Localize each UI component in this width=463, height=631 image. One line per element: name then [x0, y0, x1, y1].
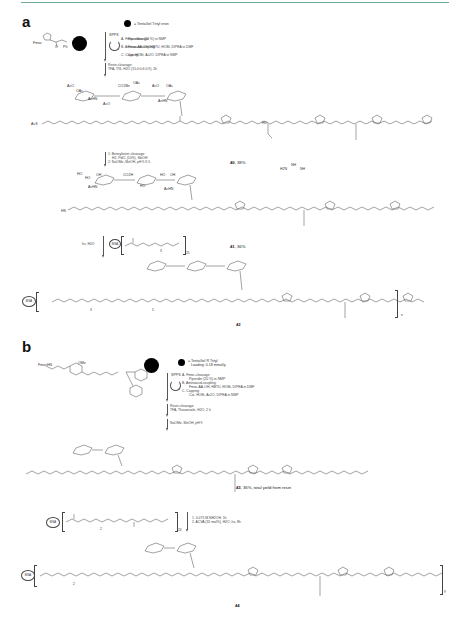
- peg-repeat-44: 2: [73, 582, 75, 586]
- resin-legend-a: = TentaGel Trityl resin: [134, 22, 169, 26]
- aco-label-3: AcO: [152, 84, 159, 88]
- resin-bead-a: [72, 36, 87, 51]
- panel-label-b: b: [22, 338, 31, 355]
- oac-label: OAc: [76, 89, 83, 93]
- compound-42-structure: [20, 256, 450, 326]
- achn-label-2: AcHN: [158, 99, 167, 103]
- spps-cond-a-c: Cat. HOBt, Ac2O, DIPEA in NMP: [128, 53, 178, 57]
- achn-41-1: AcHN: [88, 185, 97, 189]
- acetyl-label: AcO: [67, 84, 74, 88]
- resin-cleavage-cond-b: TFA, Thioanisole, H2O, 2 h: [170, 408, 211, 412]
- bracket-left-44: [34, 565, 37, 587]
- cycle-icon: [109, 40, 120, 51]
- repeat-n: n: [401, 313, 403, 317]
- bsa-carrier-42: BSA: [22, 296, 36, 307]
- spps-arrow-a: [105, 32, 106, 60]
- repeat-24: 24: [178, 528, 182, 532]
- step3-arrow-a: [103, 236, 104, 256]
- peg-repeat-3: 3: [160, 249, 162, 253]
- ho-41-3: HO: [140, 184, 145, 188]
- ho-41-2: HO: [85, 176, 90, 180]
- bsa-carrier-44: BSA: [21, 570, 35, 581]
- step4-b-2: 2. ACVA (31 mol%), H2O, hν, 8h: [192, 520, 241, 524]
- bsa-carrier-b1: BSA: [46, 517, 60, 528]
- compound-44-label: 44: [235, 603, 240, 608]
- spps-title-b: SPPS: [171, 373, 181, 377]
- oh-41-2: OH: [170, 173, 175, 177]
- compound-40-structure: [20, 88, 450, 152]
- spps-arrow-b: [167, 373, 168, 400]
- compound-43-structure: [20, 440, 450, 500]
- deprotect-arrow-b: [167, 419, 168, 429]
- cycle-icon-b: [170, 380, 181, 391]
- step2-a-2: 2: NaOMe, MeOH, pH 9-9.5: [108, 160, 150, 164]
- linker-hs: HS: [61, 209, 66, 213]
- peg-linker-a: [123, 236, 183, 254]
- repeat-9: 9: [444, 590, 446, 594]
- co2bn-label: CO2Bn: [118, 84, 130, 88]
- bracket-right-42: [395, 290, 398, 318]
- achn-41-2: AcHN: [164, 187, 173, 191]
- step2-arrow-a: [105, 152, 106, 165]
- compound-41-label: 41, 36%: [230, 244, 245, 249]
- maleimide-linker-b: [64, 512, 174, 530]
- step3-cond-a: hν, H2O: [82, 242, 94, 246]
- achn-label-1: AcHN: [88, 97, 97, 101]
- compound-44-structure: [20, 538, 450, 608]
- peg-repeat-42b: 5: [152, 308, 154, 312]
- resin-legend-icon: [124, 20, 131, 27]
- compound-40-label: 40, 38%: [230, 160, 245, 165]
- resin-legend-b-2: Loading: 0.18 mmol/g: [191, 363, 226, 367]
- spps-cond-b-c: Cat. HOBt, Ac2O, DIPEA in NMP: [189, 393, 239, 397]
- ho-label-40: HO: [262, 121, 267, 125]
- ome-label: OMe: [78, 361, 86, 365]
- ph-label-1: Ph: [63, 45, 67, 49]
- bracket-right-44: [440, 565, 443, 595]
- fmochn-label: FmocHN: [38, 363, 52, 367]
- linker-acs: AcS: [31, 122, 38, 126]
- top-rule: [21, 2, 449, 3]
- bsa-carrier-a1: BSA: [109, 239, 121, 249]
- deprotect-cond-b: NaOMe, MeOH, pH 9: [170, 421, 202, 425]
- resin-legend-icon-b: [178, 359, 185, 366]
- oac-label-2: OAc: [133, 81, 140, 85]
- ho-41-4: HO: [160, 173, 165, 177]
- fmoc-label: Fmoc: [33, 41, 42, 45]
- ho-41-1: HO: [77, 172, 82, 176]
- cleavage-arrow-a: [105, 63, 106, 75]
- step4-arrow-b: [187, 512, 188, 530]
- co2h-41: CO2H: [123, 173, 133, 177]
- resin-cleavage-cond-a: TFA, TIS, H2O (15.0:0.6:0.9), 2h: [108, 67, 157, 71]
- aco-label-2: AcO: [103, 102, 110, 106]
- repeat-25: 25: [186, 251, 190, 255]
- peg-repeat-b1: 2: [100, 527, 102, 531]
- nh-label-40: NH: [291, 163, 296, 167]
- oh-41-1: OH: [96, 173, 101, 177]
- oac-label-3: OAc: [166, 84, 173, 88]
- compound-43-label: 43, 36%, total yield from resin: [236, 485, 291, 490]
- bracket-left-42: [36, 292, 39, 312]
- resin-bead-b: [144, 358, 159, 373]
- cleavage-arrow-b: [167, 404, 168, 415]
- oxo-label: O: [55, 45, 58, 49]
- spps-title-a: SPPS: [109, 33, 119, 37]
- compound-42-label: 42: [236, 322, 241, 327]
- peg-repeat-42a: 3: [90, 308, 92, 312]
